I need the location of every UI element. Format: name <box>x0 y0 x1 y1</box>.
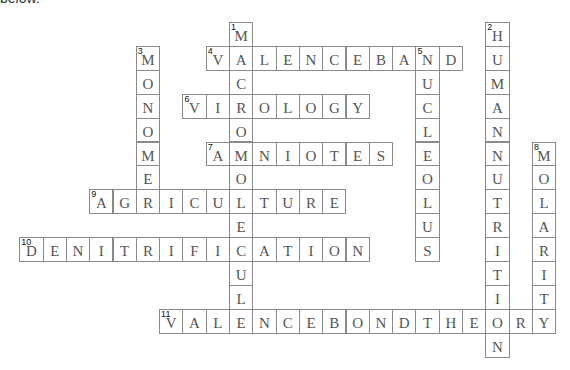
crossword-cell[interactable]: E <box>229 213 253 238</box>
crossword-cell[interactable]: 3M <box>136 46 160 71</box>
crossword-cell[interactable]: 8M <box>532 142 556 167</box>
crossword-cell[interactable]: O <box>229 118 253 143</box>
crossword-cell[interactable]: R <box>299 189 323 214</box>
crossword-cell[interactable]: T <box>485 261 509 286</box>
crossword-cell[interactable]: O <box>346 309 370 334</box>
crossword-cell[interactable]: T <box>485 189 509 214</box>
crossword-cell[interactable]: O <box>485 309 509 334</box>
crossword-cell[interactable]: U <box>415 70 439 95</box>
crossword-cell[interactable]: U <box>415 213 439 238</box>
crossword-cell[interactable]: 2H <box>485 22 509 47</box>
crossword-cell[interactable]: L <box>229 189 253 214</box>
crossword-cell[interactable]: E <box>276 46 300 71</box>
crossword-cell[interactable]: O <box>229 165 253 190</box>
crossword-cell[interactable]: E <box>462 309 486 334</box>
crossword-cell[interactable]: N <box>346 237 370 262</box>
crossword-cell[interactable]: F <box>182 237 206 262</box>
crossword-cell[interactable]: E <box>346 46 370 71</box>
crossword-cell[interactable]: T <box>415 309 439 334</box>
crossword-cell[interactable]: R <box>509 309 533 334</box>
crossword-cell[interactable]: I <box>159 189 183 214</box>
crossword-cell[interactable]: N <box>299 46 323 71</box>
crossword-cell[interactable]: B <box>369 46 393 71</box>
crossword-cell[interactable]: O <box>415 165 439 190</box>
crossword-cell[interactable]: E <box>346 142 370 167</box>
crossword-cell[interactable]: I <box>532 261 556 286</box>
crossword-cell[interactable]: N <box>485 118 509 143</box>
crossword-cell[interactable]: O <box>136 118 160 143</box>
crossword-cell[interactable]: I <box>89 237 113 262</box>
crossword-cell[interactable]: Y <box>532 309 556 334</box>
crossword-cell[interactable]: I <box>206 237 230 262</box>
crossword-cell[interactable]: 4V <box>206 46 230 71</box>
crossword-cell[interactable]: C <box>276 309 300 334</box>
crossword-cell[interactable]: C <box>415 94 439 119</box>
crossword-cell[interactable]: M <box>485 70 509 95</box>
crossword-cell[interactable]: E <box>43 237 67 262</box>
crossword-cell[interactable]: I <box>485 285 509 310</box>
crossword-cell[interactable]: 7A <box>206 142 230 167</box>
crossword-cell[interactable]: E <box>299 309 323 334</box>
crossword-cell[interactable]: M <box>229 142 253 167</box>
crossword-cell[interactable]: U <box>485 165 509 190</box>
crossword-cell[interactable]: T <box>276 237 300 262</box>
crossword-cell[interactable]: E <box>229 309 253 334</box>
crossword-cell[interactable]: B <box>322 309 346 334</box>
crossword-cell[interactable]: N <box>485 142 509 167</box>
crossword-cell[interactable]: Y <box>346 94 370 119</box>
crossword-cell[interactable]: A <box>182 309 206 334</box>
crossword-cell[interactable]: U <box>206 189 230 214</box>
crossword-cell[interactable]: C <box>229 237 253 262</box>
crossword-cell[interactable]: L <box>229 285 253 310</box>
crossword-cell[interactable]: R <box>532 237 556 262</box>
crossword-cell[interactable]: L <box>206 309 230 334</box>
crossword-cell[interactable]: S <box>369 142 393 167</box>
crossword-cell[interactable]: R <box>136 237 160 262</box>
crossword-cell[interactable]: T <box>532 285 556 310</box>
crossword-cell[interactable]: A <box>532 213 556 238</box>
crossword-cell[interactable]: I <box>485 237 509 262</box>
crossword-cell[interactable]: L <box>415 118 439 143</box>
crossword-cell[interactable]: A <box>252 237 276 262</box>
crossword-cell[interactable]: 10D <box>19 237 43 262</box>
crossword-cell[interactable]: N <box>369 309 393 334</box>
crossword-cell[interactable]: 9A <box>89 189 113 214</box>
crossword-cell[interactable]: 1M <box>229 22 253 47</box>
crossword-cell[interactable]: L <box>276 94 300 119</box>
crossword-cell[interactable]: O <box>532 165 556 190</box>
crossword-cell[interactable]: I <box>159 237 183 262</box>
crossword-cell[interactable]: C <box>229 70 253 95</box>
crossword-cell[interactable]: M <box>136 142 160 167</box>
crossword-cell[interactable]: 6V <box>182 94 206 119</box>
crossword-cell[interactable]: I <box>276 142 300 167</box>
crossword-cell[interactable]: R <box>229 94 253 119</box>
crossword-cell[interactable]: D <box>392 309 416 334</box>
crossword-cell[interactable]: C <box>182 189 206 214</box>
crossword-cell[interactable]: T <box>252 189 276 214</box>
crossword-cell[interactable]: I <box>206 94 230 119</box>
crossword-cell[interactable]: R <box>136 189 160 214</box>
crossword-cell[interactable]: A <box>485 94 509 119</box>
crossword-cell[interactable]: N <box>252 309 276 334</box>
crossword-cell[interactable]: U <box>229 261 253 286</box>
crossword-cell[interactable]: 11V <box>159 309 183 334</box>
crossword-cell[interactable]: G <box>113 189 137 214</box>
crossword-cell[interactable]: O <box>136 70 160 95</box>
crossword-cell[interactable]: L <box>532 189 556 214</box>
crossword-cell[interactable]: A <box>229 46 253 71</box>
crossword-cell[interactable]: A <box>392 46 416 71</box>
crossword-cell[interactable]: C <box>322 46 346 71</box>
crossword-cell[interactable]: I <box>299 237 323 262</box>
crossword-cell[interactable]: O <box>322 237 346 262</box>
crossword-cell[interactable]: N <box>136 94 160 119</box>
crossword-cell[interactable]: N <box>485 333 509 358</box>
crossword-cell[interactable]: L <box>415 189 439 214</box>
crossword-cell[interactable]: E <box>415 142 439 167</box>
crossword-cell[interactable]: N <box>66 237 90 262</box>
crossword-cell[interactable]: E <box>322 189 346 214</box>
crossword-cell[interactable]: T <box>113 237 137 262</box>
crossword-cell[interactable]: R <box>485 213 509 238</box>
crossword-cell[interactable]: S <box>415 237 439 262</box>
crossword-cell[interactable]: D <box>439 46 463 71</box>
crossword-cell[interactable]: N <box>252 142 276 167</box>
